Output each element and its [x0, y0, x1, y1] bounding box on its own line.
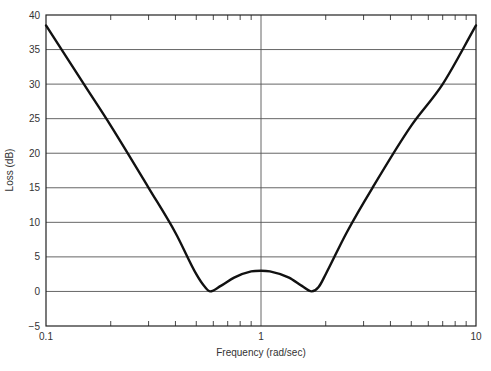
y-tick-label: 40: [29, 10, 41, 21]
y-tick-label: 5: [34, 251, 40, 262]
y-axis-title: Loss (dB): [4, 149, 15, 192]
y-axis-tick-labels: 4035302520151050−5: [29, 10, 41, 332]
y-tick-label: 25: [29, 113, 41, 124]
minor-ticks: [111, 15, 466, 326]
x-axis-title: Frequency (rad/sec): [216, 347, 305, 358]
y-tick-label: 20: [29, 148, 41, 159]
y-tick-label: 10: [29, 217, 41, 228]
y-tick-label: −5: [29, 321, 41, 332]
loss-vs-frequency-chart: 4035302520151050−5 0.1110 Frequency (rad…: [0, 0, 491, 371]
gridlines: [46, 15, 476, 326]
x-tick-label: 1: [258, 331, 264, 342]
y-tick-label: 35: [29, 44, 41, 55]
x-tick-label: 0.1: [39, 331, 53, 342]
y-tick-label: 30: [29, 79, 41, 90]
x-tick-label: 10: [470, 331, 482, 342]
y-tick-label: 0: [34, 286, 40, 297]
y-tick-label: 15: [29, 182, 41, 193]
x-axis-tick-labels: 0.1110: [39, 331, 482, 342]
